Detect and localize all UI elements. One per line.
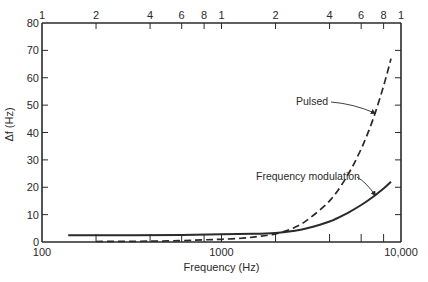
x-tick-label-top: 6 — [179, 9, 185, 21]
y-tick-label: 80 — [27, 17, 39, 29]
y-tick-label: 20 — [27, 181, 39, 193]
x-tick-label-bottom: 1000 — [209, 246, 233, 258]
y-tick-label: 50 — [27, 99, 39, 111]
x-tick-label-top: 1 — [218, 9, 224, 21]
y-tick-label: 10 — [27, 209, 39, 221]
y-tick-label: 40 — [27, 127, 39, 139]
x-tick-label-top: 1 — [398, 9, 404, 21]
series-layer — [68, 59, 391, 242]
y-axis-label: Δf (Hz) — [3, 107, 15, 141]
series-line-frequency-modulation — [68, 182, 391, 235]
x-tick-label-bottom: 10,000 — [384, 246, 418, 258]
y-tick-label: 60 — [27, 72, 39, 84]
x-tick-label-top: 2 — [93, 9, 99, 21]
axis-ticks: 01020304050607080100100010,0001246812468… — [27, 9, 418, 258]
y-tick-label: 30 — [27, 154, 39, 166]
x-tick-label-top: 8 — [381, 9, 387, 21]
x-tick-label-bottom: 100 — [33, 246, 51, 258]
annotation-label: Frequency modulation — [256, 170, 360, 182]
annotation-arrow — [331, 102, 375, 113]
x-tick-label-top: 4 — [327, 9, 333, 21]
chart: 01020304050607080100100010,0001246812468… — [0, 0, 428, 282]
x-tick-label-top: 2 — [272, 9, 278, 21]
x-tick-label-top: 4 — [147, 9, 153, 21]
annotations: PulsedFrequency modulation — [256, 95, 375, 196]
x-tick-label-top: 6 — [358, 9, 364, 21]
plot-frame — [42, 23, 401, 242]
x-tick-label-top: 8 — [201, 9, 207, 21]
x-tick-label-top: 1 — [39, 9, 45, 21]
annotation-label: Pulsed — [296, 95, 328, 107]
x-axis-label: Frequency (Hz) — [184, 261, 260, 273]
y-tick-label: 70 — [27, 44, 39, 56]
